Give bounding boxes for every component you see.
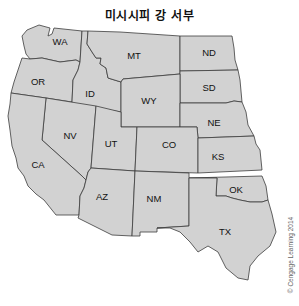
state-label-ks: KS [212, 151, 225, 162]
state-label-az: AZ [96, 191, 108, 202]
state-label-tx: TX [219, 226, 231, 237]
state-label-nd: ND [202, 47, 216, 58]
state-ks[interactable] [198, 136, 262, 173]
state-label-ok: OK [229, 184, 243, 195]
state-label-ca: CA [31, 159, 44, 170]
state-co[interactable] [135, 127, 198, 173]
western-us-map [0, 0, 299, 306]
state-label-id: ID [85, 88, 95, 99]
copyright-notice: © Cengage Learning 2014 [287, 217, 294, 293]
state-label-co: CO [162, 139, 176, 150]
state-label-wy: WY [141, 95, 156, 106]
state-label-sd: SD [202, 82, 215, 93]
state-az[interactable] [78, 168, 135, 236]
state-label-ut: UT [105, 138, 118, 149]
state-label-or: OR [31, 76, 45, 87]
state-label-mt: MT [127, 50, 141, 61]
state-label-nv: NV [63, 130, 76, 141]
state-label-ne: NE [207, 117, 220, 128]
state-label-nm: NM [147, 193, 162, 204]
state-label-wa: WA [53, 36, 68, 47]
